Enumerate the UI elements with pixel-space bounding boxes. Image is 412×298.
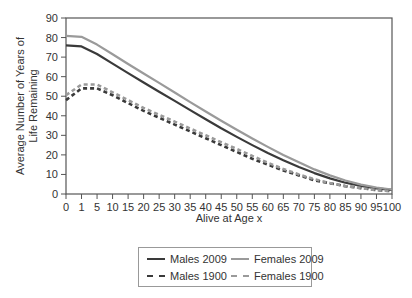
plot-area	[66, 18, 392, 194]
series-males-1900	[66, 88, 392, 191]
y-tick-label: 70	[46, 51, 58, 63]
x-tick-label: 25	[153, 201, 165, 213]
x-tick-label: 100	[383, 201, 401, 213]
legend-label: Males 1900	[170, 270, 227, 282]
x-tick-label: 0	[63, 201, 69, 213]
legend-item-males-1900: Males 1900	[147, 270, 227, 282]
legend-swatch-solid-light-icon	[231, 258, 249, 260]
legend-swatch-solid-dark-icon	[147, 258, 165, 260]
chart-legend: Males 2009 Females 2009 Males 1900 Femal…	[138, 247, 312, 287]
x-tick-label: 80	[324, 201, 336, 213]
x-tick-label: 5	[94, 201, 100, 213]
y-axis-label-line1: Average Number of Years of	[14, 36, 26, 175]
series-males-2009	[66, 45, 392, 190]
y-tick-label: 60	[46, 71, 58, 83]
x-tick-label: 70	[293, 201, 305, 213]
y-tick-label: 40	[46, 110, 58, 122]
legend-swatch-dashed-dark-icon	[147, 275, 165, 277]
legend-label: Males 2009	[170, 253, 227, 265]
y-tick-label: 50	[46, 90, 58, 102]
y-tick-label: 20	[46, 149, 58, 161]
legend-label: Females 1900	[254, 270, 324, 282]
x-tick-label: 75	[308, 201, 320, 213]
y-axis-label: Average Number of Years ofLife Remaining	[14, 36, 39, 175]
x-tick-label: 1	[78, 201, 84, 213]
y-tick-label: 80	[46, 32, 58, 44]
y-axis-label-line2: Life Remaining	[27, 69, 39, 142]
x-tick-label: 30	[169, 201, 181, 213]
x-axis-label: Alive at Age x	[196, 212, 263, 224]
y-axis-ticks: 0102030405060708090	[46, 12, 66, 200]
x-tick-label: 10	[106, 201, 118, 213]
x-axis-ticks: 0151015202530354045505560657075808590951…	[63, 194, 401, 213]
legend-item-females-1900: Females 1900	[231, 270, 324, 282]
y-tick-label: 0	[52, 188, 58, 200]
series-females-2009	[66, 36, 392, 190]
series-females-1900	[66, 85, 392, 192]
x-tick-label: 35	[184, 201, 196, 213]
legend-item-males-2009: Males 2009	[147, 253, 227, 265]
x-tick-label: 90	[355, 201, 367, 213]
legend-label: Females 2009	[254, 253, 324, 265]
x-tick-label: 65	[277, 201, 289, 213]
x-tick-label: 20	[137, 201, 149, 213]
plot-frame	[66, 18, 392, 194]
legend-item-females-2009: Females 2009	[231, 253, 324, 265]
y-tick-label: 90	[46, 12, 58, 24]
legend-swatch-dashed-light-icon	[231, 275, 249, 277]
x-tick-label: 15	[122, 201, 134, 213]
x-tick-label: 95	[370, 201, 382, 213]
y-tick-label: 10	[46, 168, 58, 180]
x-tick-label: 60	[262, 201, 274, 213]
x-tick-label: 85	[339, 201, 351, 213]
y-tick-label: 30	[46, 129, 58, 141]
